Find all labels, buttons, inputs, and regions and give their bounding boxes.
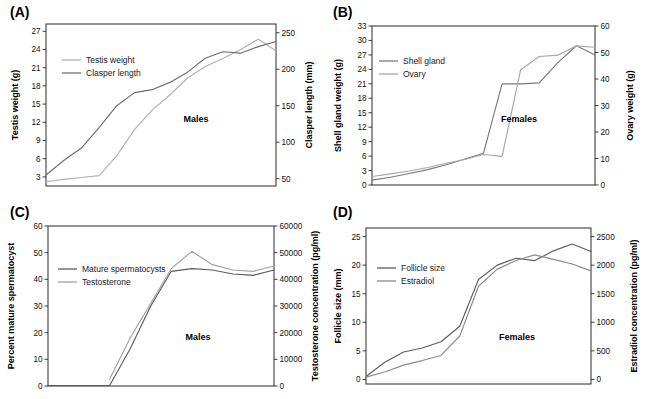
panel-d-chart: 051015202505001000150020002500Follicle s… <box>323 200 646 399</box>
left-axis-tick-label: 33 <box>357 22 367 31</box>
left-axis-tick-label: 12 <box>31 118 41 127</box>
left-axis-tick-label: 50 <box>33 249 43 258</box>
left-axis-tick-label: 5 <box>356 347 361 356</box>
panel-d: (D) 051015202505001000150020002500Follic… <box>323 200 646 399</box>
right-axis-tick-label: 1000 <box>597 318 616 327</box>
right-axis-tick-label: 10000 <box>280 355 303 364</box>
series-line-follicle-size <box>366 244 591 377</box>
legend-label: Ovary <box>403 69 426 79</box>
panel-annotation: Males <box>183 114 208 124</box>
left-axis-tick-label: 15 <box>357 109 367 118</box>
legend-label: Estradiol <box>401 276 434 286</box>
left-axis-tick-label: 21 <box>31 64 41 73</box>
right-axis-tick-label: 150 <box>282 102 296 111</box>
left-axis-tick-label: 9 <box>362 138 367 147</box>
left-axis-tick-label: 18 <box>31 82 41 91</box>
right-axis-tick-label: 30000 <box>280 302 303 311</box>
legend-label: Testosterone <box>82 277 131 287</box>
right-axis-tick-label: 500 <box>597 347 611 356</box>
right-axis-title: Estradiol concentration (pg/ml) <box>629 239 639 372</box>
left-axis-tick-label: 27 <box>357 51 367 60</box>
left-axis-tick-label: 30 <box>33 302 43 311</box>
left-axis-tick-label: 27 <box>31 27 41 36</box>
left-axis-tick-label: 20 <box>33 329 43 338</box>
panel-a: (A) 36912151821242750100150200250Testis … <box>0 0 323 199</box>
panel-a-chart: 36912151821242750100150200250Testis weig… <box>0 0 323 199</box>
right-axis-title: Clasper length (mm) <box>304 61 314 148</box>
panel-b: (B) 036912151821242730330102030405060She… <box>323 0 646 199</box>
right-axis-tick-label: 0 <box>280 382 285 391</box>
right-axis-tick-label: 40000 <box>280 275 303 284</box>
right-axis-tick-label: 200 <box>282 65 296 74</box>
right-axis-tick-label: 10 <box>601 155 611 164</box>
legend-label: Follicle size <box>401 263 445 273</box>
panel-c: (C) 010203040506001000020000300004000050… <box>0 200 323 399</box>
right-axis-tick-label: 60 <box>601 22 611 31</box>
legend-label: Testis weight <box>86 55 135 65</box>
right-axis-tick-label: 0 <box>597 375 602 384</box>
left-axis-tick-label: 0 <box>356 375 361 384</box>
right-axis-tick-label: 100 <box>282 138 296 147</box>
right-axis-tick-label: 250 <box>282 29 296 38</box>
left-axis-tick-label: 30 <box>357 36 367 45</box>
left-axis-tick-label: 24 <box>357 65 367 74</box>
panel-annotation: Males <box>185 332 210 342</box>
panel-c-chart: 0102030405060010000200003000040000500006… <box>0 200 323 399</box>
panel-annotation: Females <box>501 114 537 124</box>
right-axis-tick-label: 50000 <box>280 249 303 258</box>
right-axis-title: Ovary weight (g) <box>625 70 635 141</box>
legend-label: Mature spermatocysts <box>82 264 166 274</box>
series-line-estradiol <box>366 255 591 377</box>
panel-annotation: Females <box>499 332 535 342</box>
left-axis-title: Follicle size (mm) <box>333 268 343 343</box>
left-axis-tick-label: 15 <box>31 100 41 109</box>
right-axis-tick-label: 50 <box>282 175 292 184</box>
left-axis-tick-label: 6 <box>362 152 367 161</box>
left-axis-tick-label: 18 <box>357 94 367 103</box>
right-axis-tick-label: 60000 <box>280 222 303 231</box>
right-axis-tick-label: 0 <box>601 181 606 190</box>
legend-label: Shell gland <box>403 56 445 66</box>
series-line-clasper-length <box>46 42 276 176</box>
left-axis-tick-label: 60 <box>33 222 43 231</box>
left-axis-tick-label: 15 <box>351 290 361 299</box>
left-axis-tick-label: 10 <box>33 355 43 364</box>
left-axis-tick-label: 3 <box>362 167 367 176</box>
left-axis-tick-label: 20 <box>351 261 361 270</box>
right-axis-tick-label: 2500 <box>597 233 616 242</box>
left-axis-title: Shell gland weight (g) <box>333 59 343 152</box>
left-axis-tick-label: 25 <box>351 233 361 242</box>
left-axis-tick-label: 0 <box>362 181 367 190</box>
right-axis-tick-label: 2000 <box>597 261 616 270</box>
right-axis-tick-label: 40 <box>601 75 611 84</box>
left-axis-tick-label: 3 <box>36 173 41 182</box>
left-axis-tick-label: 0 <box>38 382 43 391</box>
left-axis-tick-label: 40 <box>33 275 43 284</box>
left-axis-tick-label: 12 <box>357 123 367 132</box>
panel-b-chart: 036912151821242730330102030405060Shell g… <box>323 0 646 199</box>
right-axis-tick-label: 50 <box>601 49 611 58</box>
right-axis-title: Testosterone concentration (pg/ml) <box>310 231 320 381</box>
left-axis-tick-label: 21 <box>357 80 367 89</box>
left-axis-title: Percent mature spermatocyst <box>6 243 16 370</box>
left-axis-tick-label: 6 <box>36 155 41 164</box>
left-axis-tick-label: 10 <box>351 318 361 327</box>
left-axis-tick-label: 24 <box>31 45 41 54</box>
right-axis-tick-label: 20 <box>601 128 611 137</box>
right-axis-tick-label: 30 <box>601 102 611 111</box>
right-axis-tick-label: 20000 <box>280 329 303 338</box>
legend-label: Clasper length <box>86 68 141 78</box>
left-axis-tick-label: 9 <box>36 136 41 145</box>
right-axis-tick-label: 1500 <box>597 290 616 299</box>
left-axis-title: Testis weight (g) <box>10 70 20 140</box>
figure-container: (A) 36912151821242750100150200250Testis … <box>0 0 646 399</box>
